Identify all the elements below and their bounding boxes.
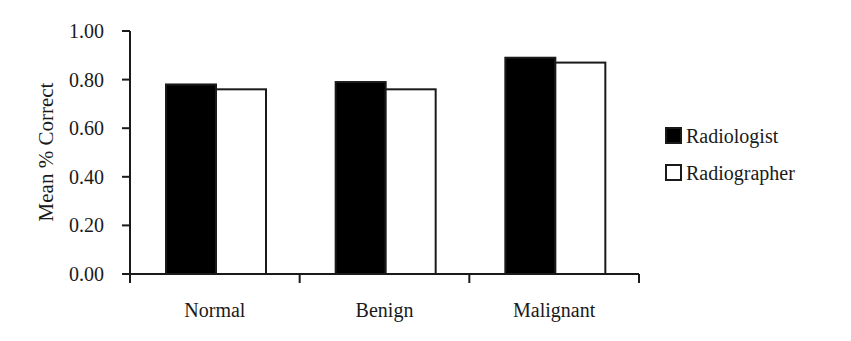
legend-swatch-radiologist: [666, 128, 681, 143]
bar-radiologist-malignant: [505, 58, 555, 274]
bars: [166, 58, 605, 274]
bar-radiologist-normal: [166, 84, 216, 274]
y-tick-label: 0.40: [69, 166, 104, 188]
x-category-label: Normal: [184, 299, 246, 321]
y-tick-label: 0.60: [69, 117, 104, 139]
bar-radiographer-normal: [216, 89, 266, 274]
y-tick-label: 0.00: [69, 263, 104, 285]
bar-radiologist-benign: [336, 82, 386, 274]
legend: RadiologistRadiographer: [666, 125, 795, 185]
y-tick-label: 0.80: [69, 69, 104, 91]
x-category-label: Benign: [356, 299, 414, 322]
bar-radiographer-benign: [386, 89, 436, 274]
legend-swatch-radiographer: [666, 165, 681, 180]
y-axis-title: Mean % Correct: [34, 82, 58, 221]
bar-radiographer-malignant: [555, 63, 605, 274]
y-axis: 0.000.200.400.600.801.00: [69, 20, 130, 285]
legend-label-radiographer: Radiographer: [686, 162, 795, 185]
x-category-label: Malignant: [513, 299, 596, 322]
y-tick-label: 1.00: [69, 20, 104, 42]
y-tick-label: 0.20: [69, 214, 104, 236]
bar-chart: 0.000.200.400.600.801.00 NormalBenignMal…: [0, 0, 851, 341]
x-axis: NormalBenignMalignant: [122, 274, 639, 322]
legend-label-radiologist: Radiologist: [686, 125, 779, 148]
